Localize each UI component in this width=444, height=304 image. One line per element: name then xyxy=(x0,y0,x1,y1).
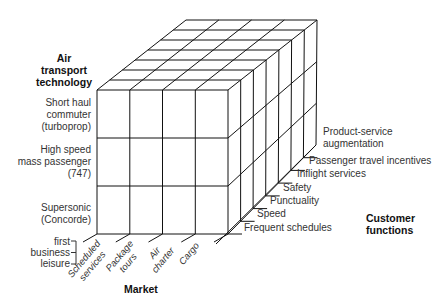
row-line: mass passenger xyxy=(18,156,91,168)
row-line: commuter xyxy=(42,109,91,121)
layer-label-passenger-travel-incentives: Passenger travel incentives xyxy=(309,155,431,167)
class-leisure: leisure xyxy=(31,258,70,269)
layer-label-safety: Safety xyxy=(283,182,311,194)
row-label-short-haul: Short haul commuter (turboprop) xyxy=(42,97,91,133)
layer-line: augmentation xyxy=(323,138,392,150)
class-bracket-labels: first business leisure xyxy=(31,236,70,269)
layer-label-frequent-schedules: Frequent schedules xyxy=(244,222,332,234)
layer-line: Product-service xyxy=(323,126,392,138)
row-line: (turboprop) xyxy=(42,121,91,133)
row-label-high-speed: High speed mass passenger (747) xyxy=(18,144,91,180)
vertical-title-line-3: technology xyxy=(36,76,92,88)
vertical-title-line-1: Air xyxy=(36,52,92,64)
row-line: Short haul xyxy=(42,97,91,109)
layer-label-product-service-augmentation: Product-service augmentation xyxy=(323,126,392,150)
row-line: (747) xyxy=(18,168,91,180)
depth-axis-title: Customer functions xyxy=(366,212,415,236)
depth-title-line-1: Customer xyxy=(366,212,415,224)
row-line: Supersonic xyxy=(41,202,91,214)
vertical-axis-title: Air transport technology xyxy=(36,52,92,88)
row-line: (Concorde) xyxy=(41,214,91,226)
row-label-supersonic: Supersonic (Concorde) xyxy=(41,202,91,226)
layer-label-inflight-services: Inflight services xyxy=(297,168,366,180)
layer-label-speed: Speed xyxy=(257,208,286,220)
row-line: High speed xyxy=(18,144,91,156)
class-business: business xyxy=(31,247,70,258)
vertical-title-line-2: transport xyxy=(36,64,92,76)
class-first: first xyxy=(31,236,70,247)
layer-label-punctuality: Punctuality xyxy=(270,195,319,207)
depth-title-line-2: functions xyxy=(366,224,415,236)
horizontal-axis-title: Market xyxy=(124,283,158,295)
